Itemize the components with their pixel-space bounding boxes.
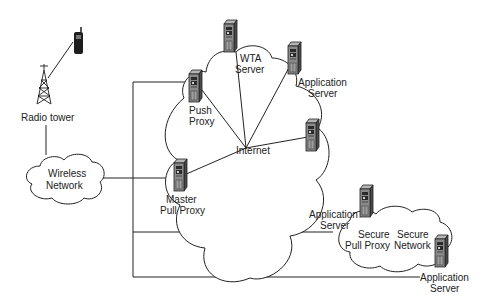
push-proxy-label-2: Proxy: [189, 116, 215, 127]
wta-server-label-2: Server: [235, 64, 265, 75]
mobile-phone-icon: [74, 27, 83, 54]
radio-tower-icon: [37, 64, 51, 104]
wta-server-label-1: WTA: [240, 53, 262, 64]
push-proxy-server-icon: [189, 70, 202, 102]
push-proxy-label-1: Push: [189, 105, 212, 116]
radio-tower-label: Radio tower: [21, 112, 75, 123]
app-server-top-icon: [288, 42, 301, 74]
wta-server-icon: [224, 20, 237, 52]
secure-network-label-2: Network: [394, 240, 432, 251]
phone-to-tower-link: [48, 42, 73, 78]
app-server-mid-icon: [360, 185, 373, 217]
master-pull-proxy-label-1: Master: [166, 194, 197, 205]
secure-pull-proxy-label-2: Pull Proxy: [345, 240, 390, 251]
network-diagram: Radio tower Wireless Network Push Proxy …: [0, 0, 489, 306]
internet-label: Internet: [236, 145, 270, 156]
app-server-top-label-2: Server: [308, 88, 338, 99]
app-server-mid-label-2: Server: [320, 220, 350, 231]
master-pull-proxy-server-icon: [174, 159, 187, 191]
master-pull-proxy-label-2: Pull Proxy: [160, 205, 205, 216]
app-server-bottom-icon: [435, 235, 448, 267]
app-server-bottom-label-2: Server: [430, 283, 460, 294]
secure-pull-proxy-label-1: Secure: [358, 229, 390, 240]
wireless-network-label-2: Network: [46, 180, 84, 191]
wireless-network-label-1: Wireless: [48, 168, 86, 179]
app-server-bottom-label-1: Application: [420, 272, 469, 283]
app-server-top-label-1: Application: [298, 77, 347, 88]
secure-network-label-1: Secure: [397, 229, 429, 240]
app-server-right-icon: [306, 119, 319, 151]
app-server-mid-label-1: Application: [309, 209, 358, 220]
